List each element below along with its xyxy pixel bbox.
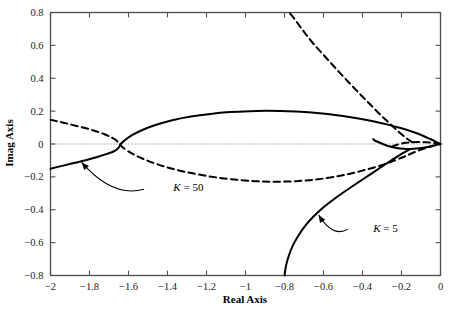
x-axis-title: Real Axis	[223, 293, 268, 305]
x-tick-label: −0.6	[314, 281, 333, 292]
annotation-k-value: = 5	[381, 222, 399, 234]
figure-background	[0, 0, 454, 312]
root-locus-chart: −2−1.8−1.6−1.4−1.2−1−0.8−0.6−0.4−0.20 −0…	[0, 0, 454, 312]
x-tick-label: −0.8	[275, 281, 294, 292]
y-tick-label: −0.4	[24, 204, 44, 215]
y-tick-label: 0.4	[30, 73, 44, 84]
x-tick-label: −2	[45, 281, 56, 292]
x-tick-label: −1.8	[80, 281, 99, 292]
annotation-label-annot-k5: K = 5	[372, 222, 398, 234]
x-tick-label: −1.4	[158, 281, 178, 292]
root-locus-figure: −2−1.8−1.6−1.4−1.2−1−0.8−0.6−0.4−0.20 −0…	[0, 0, 454, 312]
y-tick-label: 0	[38, 139, 43, 150]
x-tick-label: −0.4	[353, 281, 373, 292]
y-axis-title: Imag Axis	[3, 119, 15, 167]
y-tick-label: −0.6	[24, 237, 43, 248]
x-tick-label: −1.2	[197, 281, 216, 292]
y-tick-label: 0.2	[30, 106, 43, 117]
x-tick-label: −0.2	[392, 281, 411, 292]
x-tick-label: 0	[438, 281, 443, 292]
annotation-label-annot-k50: K = 50	[172, 181, 204, 193]
y-tick-label: −0.2	[24, 171, 43, 182]
x-tick-label: −1.6	[119, 281, 138, 292]
y-tick-label: 0.8	[30, 7, 43, 18]
y-tick-label: −0.8	[24, 270, 43, 281]
x-tick-label: −1	[240, 281, 251, 292]
y-tick-label: 0.6	[30, 40, 43, 51]
annotation-k-value: = 50	[181, 181, 204, 193]
